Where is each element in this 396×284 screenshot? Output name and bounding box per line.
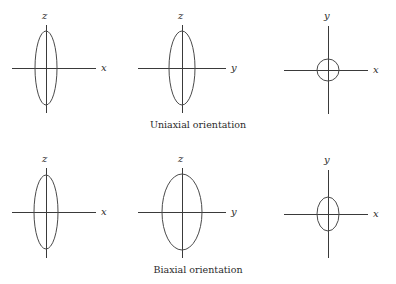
axis-label-horizontal: y: [231, 63, 237, 73]
panel-uniaxial-zx-svg: [0, 6, 132, 124]
axis-label-vertical: y: [324, 155, 330, 165]
indicatrix-figure: z x z y y x Uniaxial orientation: [0, 0, 396, 284]
axis-label-vertical: y: [324, 11, 330, 21]
biaxial-row: z x z y y x: [0, 148, 396, 266]
uniaxial-row: z x z y y x: [0, 6, 396, 124]
axis-label-vertical: z: [178, 11, 183, 21]
caption-uniaxial: Uniaxial orientation: [0, 119, 396, 130]
caption-biaxial: Biaxial orientation: [0, 264, 396, 275]
axis-label-vertical: z: [42, 154, 47, 164]
panel-uniaxial-zy: z y: [130, 6, 262, 124]
axis-label-horizontal: x: [101, 63, 107, 73]
panel-biaxial-yx: y x: [260, 148, 392, 266]
panel-uniaxial-zx: z x: [0, 6, 132, 124]
axis-label-horizontal: y: [231, 207, 237, 217]
panel-biaxial-zy-svg: [130, 148, 262, 266]
axis-label-vertical: z: [178, 154, 183, 164]
panel-biaxial-zx: z x: [0, 148, 132, 266]
panel-biaxial-zx-svg: [0, 148, 132, 266]
axis-label-horizontal: x: [101, 207, 107, 217]
panel-uniaxial-yx: y x: [260, 6, 392, 124]
panel-biaxial-yx-svg: [260, 148, 392, 266]
panel-uniaxial-zy-svg: [130, 6, 262, 124]
axis-label-vertical: z: [42, 11, 47, 21]
panel-biaxial-zy: z y: [130, 148, 262, 266]
axis-label-horizontal: x: [373, 209, 379, 219]
axis-label-horizontal: x: [373, 65, 379, 75]
